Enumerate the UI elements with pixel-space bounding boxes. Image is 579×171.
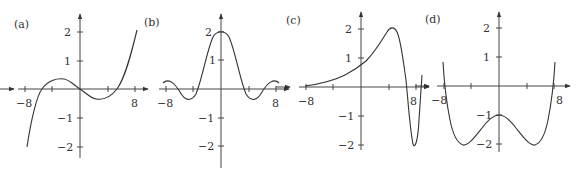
y-tick-label: −2: [338, 139, 354, 152]
panel-label-c: (c): [286, 14, 301, 27]
y-tick-label: 2: [483, 22, 490, 35]
x-tick-label: 8: [556, 94, 563, 107]
panel-label-d: (d): [425, 13, 441, 26]
y-tick-label: 1: [483, 51, 490, 64]
y-tick-label: −2: [476, 138, 492, 151]
y-tick-label: −1: [338, 110, 354, 123]
y-tick-label: 1: [345, 52, 352, 65]
y-tick-label: 2: [64, 26, 71, 39]
y-tick-label: 1: [209, 54, 216, 67]
panel-label-a: (a): [14, 18, 29, 31]
x-tick-label: −8: [298, 95, 314, 108]
y-tick-label: 1: [64, 55, 71, 68]
y-tick-label: −2: [57, 141, 73, 154]
y-tick-label: 2: [205, 26, 212, 39]
panel-d: (d) −8 8 2 1 −1 −2: [415, 12, 570, 152]
x-tick-label: 8: [131, 97, 138, 110]
x-tick-label: −8: [431, 94, 447, 107]
y-tick-label: −2: [198, 140, 214, 153]
y-tick-label: −1: [57, 112, 73, 125]
x-tick-label: −8: [16, 97, 32, 110]
panel-a: (a) −8 8 2 1 −1 −2: [14, 14, 148, 158]
function-graphs-figure: (a) −8 8 2 1 −1 −2 (b) −8 8: [0, 0, 579, 171]
panel-b: (b) −8 8 2 1 −1 −2: [0, 14, 289, 168]
panel-label-b: (b): [144, 16, 160, 29]
panel-c: (c) −8 8 2 1 −1 −2: [276, 12, 429, 152]
x-tick-label: 8: [272, 97, 279, 110]
x-tick-label: −8: [157, 97, 173, 110]
y-tick-label: −1: [198, 112, 214, 125]
y-tick-label: 2: [345, 23, 352, 36]
x-tick-label: 8: [410, 95, 417, 108]
